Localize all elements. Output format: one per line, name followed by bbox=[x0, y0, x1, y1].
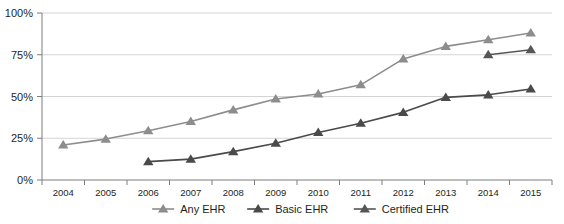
x-axis-tick-label: 2012 bbox=[393, 187, 414, 198]
x-axis-tick-label: 2004 bbox=[53, 187, 74, 198]
series-marker bbox=[356, 80, 366, 88]
y-axis-tick-label: 100% bbox=[5, 7, 33, 19]
series-marker bbox=[526, 45, 536, 53]
ehr-adoption-line-chart: 0%25%50%75%100% 200420052006200720082009… bbox=[0, 0, 564, 224]
y-axis-tick-label: 50% bbox=[11, 91, 33, 103]
x-axis-tick-label: 2014 bbox=[478, 187, 499, 198]
x-axis-tick-label: 2010 bbox=[308, 187, 329, 198]
x-axis-tick-label: 2006 bbox=[138, 187, 159, 198]
legend-item[interactable]: Any EHR bbox=[152, 203, 225, 215]
xaxis-group: 2004200520062007200820092010201120122013… bbox=[42, 180, 552, 198]
gridlines-group bbox=[42, 13, 552, 138]
data-series bbox=[58, 28, 536, 148]
legend-item[interactable]: Basic EHR bbox=[247, 203, 328, 215]
y-axis-tick-label: 75% bbox=[11, 49, 33, 61]
x-axis-tick-label: 2007 bbox=[180, 187, 201, 198]
x-axis-tick-label: 2005 bbox=[95, 187, 116, 198]
legend-group: Any EHRBasic EHRCertified EHR bbox=[152, 203, 449, 215]
series-marker bbox=[526, 84, 536, 92]
series-line bbox=[148, 89, 531, 162]
y-axis-tick-label: 0% bbox=[17, 174, 33, 186]
legend-item[interactable]: Certified EHR bbox=[354, 203, 449, 215]
y-axis-tick-label: 25% bbox=[11, 132, 33, 144]
series-line bbox=[488, 50, 531, 55]
series-marker bbox=[526, 28, 536, 36]
x-axis-tick-label: 2011 bbox=[351, 187, 371, 198]
legend-label: Certified EHR bbox=[382, 203, 449, 215]
series-line bbox=[63, 33, 531, 145]
x-axis-tick-label: 2008 bbox=[223, 187, 244, 198]
data-series bbox=[483, 45, 536, 59]
x-axis-tick-label: 2013 bbox=[435, 187, 456, 198]
legend-label: Any EHR bbox=[180, 203, 225, 215]
yaxis-group: 0%25%50%75%100% bbox=[5, 7, 42, 186]
x-axis-tick-label: 2015 bbox=[520, 187, 541, 198]
x-axis-tick-label: 2009 bbox=[265, 187, 286, 198]
legend-label: Basic EHR bbox=[275, 203, 328, 215]
chart-canvas: 0%25%50%75%100% 200420052006200720082009… bbox=[0, 0, 564, 224]
